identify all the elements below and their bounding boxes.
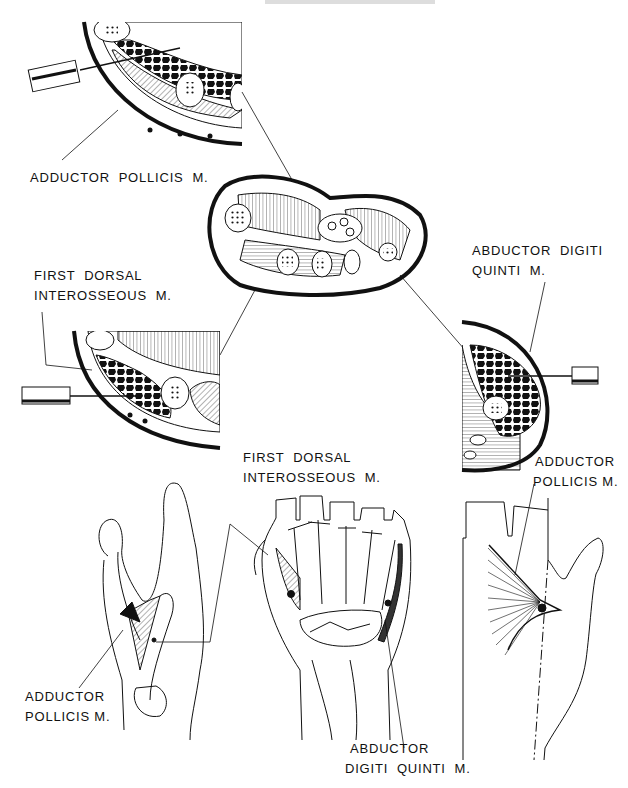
leader-line [385,620,404,748]
anatomy-illustration [0,0,628,788]
label-adductor-pollicis-left-line2: POLLICIS M. [25,706,110,727]
leader-line [242,92,295,185]
label-adductor-pollicis-right-line2: POLLICIS M. [533,471,618,492]
cross-section-abductor-digiti-quinti [462,325,540,470]
cross-section-full-hand [209,177,425,295]
label-adductor-pollicis-right-line1: ADDUCTOR [535,451,615,472]
label-first-dorsal-interosseous-bottom-line2: INTEROSSEOUS M. [243,467,381,488]
label-first-dorsal-interosseous-mid-line1: FIRST DORSAL [34,265,142,286]
title-fragment [265,0,435,4]
label-abductor-digiti-quinti-mid-line1: ABDUCTOR DIGITI [472,240,603,261]
leader-line [62,110,118,160]
label-first-dorsal-interosseous-mid-line2: INTEROSSEOUS M. [34,285,172,306]
emg-needle-placement-diagram: ADDUCTOR POLLICIS M. FIRST DORSAL INTERO… [0,0,628,788]
leader-line [220,290,255,355]
label-adductor-pollicis-top: ADDUCTOR POLLICIS M. [30,167,208,188]
label-adductor-pollicis-left-line1: ADDUCTOR [25,686,105,707]
label-abductor-digiti-quinti-bottom-line2: DIGITI QUINTI M. [345,758,471,779]
label-abductor-digiti-quinti-mid-line2: QUINTI M. [472,260,546,281]
leader-line [530,282,545,352]
leader-line [400,275,465,350]
leader-line [156,524,268,642]
cross-section-first-dorsal-interosseous [76,330,220,446]
hand-lateral-thumb-view [99,483,203,740]
leader-line [515,484,534,575]
hand-palmar-thumb-view [463,498,603,760]
label-abductor-digiti-quinti-bottom-line1: ABDUCTOR [350,738,429,759]
label-first-dorsal-interosseous-bottom-line1: FIRST DORSAL [243,447,351,468]
hand-dorsal-skeleton-view [254,496,410,740]
